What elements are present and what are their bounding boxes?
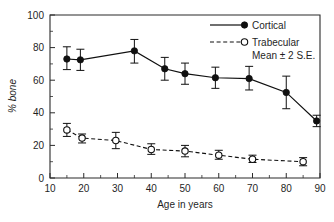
y-tick-label: 100 — [27, 10, 44, 21]
chart-legend: Cortical Trabecular Mean ± 2 S.E. — [210, 20, 315, 61]
data-point-cortical — [162, 66, 168, 72]
data-point-cortical — [212, 75, 218, 81]
data-point-cortical — [313, 118, 319, 124]
data-point-trabecular — [182, 148, 188, 154]
x-tick-label: 70 — [247, 183, 259, 194]
data-point-cortical — [131, 48, 137, 54]
x-tick-label: 90 — [314, 183, 326, 194]
y-axis-tick-labels: 020406080100 — [27, 10, 44, 184]
x-tick-label: 30 — [112, 183, 124, 194]
data-point-trabecular — [148, 146, 154, 152]
legend-label-trabecular: Trabecular — [252, 37, 300, 48]
data-point-cortical — [77, 57, 83, 63]
x-tick-label: 20 — [78, 183, 90, 194]
legend-marker-trabecular-open-circle-icon — [241, 39, 247, 45]
data-point-trabecular — [113, 137, 119, 143]
x-tick-label: 60 — [213, 183, 225, 194]
legend-marker-cortical-filled-circle-icon — [241, 22, 247, 28]
x-tick-label: 10 — [44, 183, 56, 194]
data-point-trabecular — [64, 127, 70, 133]
data-point-trabecular — [216, 152, 222, 158]
data-point-cortical — [64, 56, 70, 62]
x-axis-major-ticks — [50, 173, 320, 178]
x-tick-label: 40 — [146, 183, 158, 194]
x-axis-tick-labels: 102030405060708090 — [44, 183, 326, 194]
y-tick-label: 60 — [33, 75, 45, 86]
legend-note-mean-standard-error: Mean ± 2 S.E. — [252, 50, 315, 61]
x-axis-title: Age in years — [157, 199, 213, 210]
y-axis-title: % bone — [7, 79, 18, 113]
chart-figure: 102030405060708090 020406080100 Age in y… — [0, 0, 334, 222]
data-point-trabecular — [249, 156, 255, 162]
data-point-cortical — [283, 89, 289, 95]
data-point-cortical — [182, 70, 188, 76]
bone-percent-vs-age-chart: 102030405060708090 020406080100 Age in y… — [0, 0, 334, 222]
y-tick-label: 80 — [33, 42, 45, 53]
series-line-cortical — [67, 51, 317, 121]
data-point-trabecular — [79, 135, 85, 141]
legend-label-cortical: Cortical — [252, 20, 286, 31]
data-point-cortical — [246, 75, 252, 81]
series-trabecular — [63, 123, 307, 165]
x-tick-label: 50 — [179, 183, 191, 194]
data-point-trabecular — [300, 159, 306, 165]
y-tick-label: 40 — [33, 107, 45, 118]
y-tick-label: 0 — [38, 173, 44, 184]
x-tick-label: 80 — [281, 183, 293, 194]
y-tick-label: 20 — [33, 140, 45, 151]
